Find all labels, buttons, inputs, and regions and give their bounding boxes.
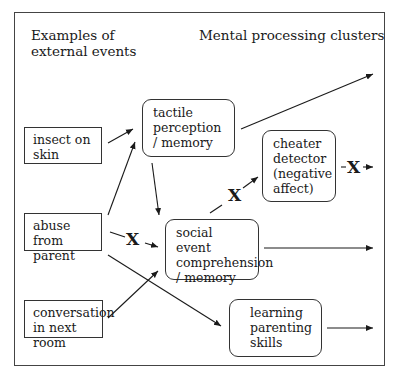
arrow-x-to-social: [145, 243, 158, 247]
arrow-abuse-to-tactile: [108, 142, 135, 215]
arrow-conversation-to-social: [108, 271, 158, 318]
arrow-tactile-to-social: [152, 163, 159, 215]
blocked-x-mark: X: [126, 230, 139, 248]
arrow-tactile-out: [241, 74, 373, 129]
arrow-abuse-to-learning: [108, 255, 221, 326]
arrows-layer: [0, 0, 395, 378]
arrow-abuse-to-x: [110, 232, 125, 237]
arrow-x-to-cheater: [243, 177, 258, 188]
blocked-x-mark: X: [228, 186, 241, 204]
arrow-social-to-x: [210, 205, 222, 213]
blocked-x-mark: X: [347, 158, 360, 176]
arrow-insect-to-tactile: [108, 129, 133, 143]
